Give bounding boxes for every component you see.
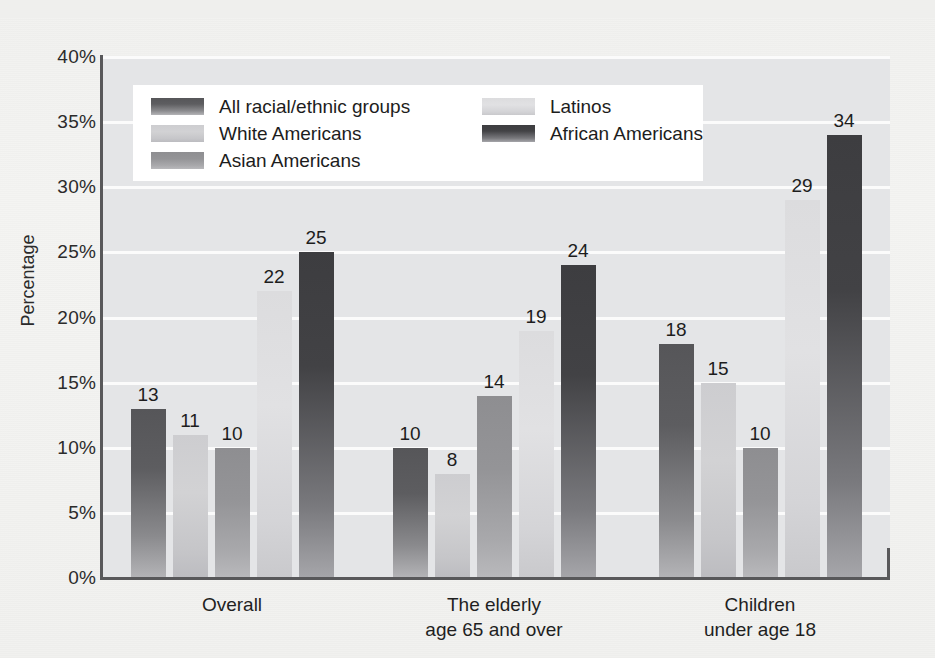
legend-item: White Americans <box>151 120 482 147</box>
legend-label: Latinos <box>550 96 611 118</box>
bar-value-label: 25 <box>305 227 326 249</box>
bar-value-label: 14 <box>483 371 504 393</box>
bar-value-label: 29 <box>791 175 812 197</box>
bar-value-label: 10 <box>221 423 242 445</box>
y-tick-labels: 0%5%10%15%20%25%30%35%40% <box>0 0 96 658</box>
x-group-label: Children under age 18 <box>704 592 816 642</box>
gridline <box>102 251 890 254</box>
gridline <box>102 56 890 59</box>
bar-value-label: 18 <box>665 319 686 341</box>
y-tick-label: 40% <box>4 46 96 68</box>
legend-item: Latinos <box>482 93 703 120</box>
bar: 11 <box>173 435 208 578</box>
x-axis-right-tick <box>887 548 890 580</box>
legend-label: African Americans <box>550 123 703 145</box>
bar: 10 <box>743 448 778 578</box>
bar: 15 <box>701 383 736 578</box>
y-tick-label: 5% <box>4 502 96 524</box>
y-tick-label: 10% <box>4 437 96 459</box>
x-axis-line <box>100 577 890 580</box>
bar: 10 <box>393 448 428 578</box>
gridline <box>102 186 890 189</box>
legend-column-right: LatinosAfrican Americans <box>482 93 703 181</box>
y-axis-title: Percentage <box>18 191 39 371</box>
bar: 14 <box>477 396 512 578</box>
legend-column-left: All racial/ethnic groupsWhite AmericansA… <box>151 93 482 181</box>
chart-figure: 13111022251081419241815102934 0%5%10%15%… <box>0 0 935 658</box>
bar: 25 <box>299 252 334 578</box>
bar: 10 <box>215 448 250 578</box>
legend-item: All racial/ethnic groups <box>151 93 482 120</box>
legend-item: African Americans <box>482 120 703 147</box>
legend-swatch-icon <box>482 98 535 115</box>
paper-top-edge <box>0 0 935 18</box>
y-tick-label: 35% <box>4 111 96 133</box>
bar: 13 <box>131 409 166 578</box>
x-group-label: The elderly age 65 and over <box>425 592 562 642</box>
bar: 19 <box>519 331 554 578</box>
bar-value-label: 15 <box>707 358 728 380</box>
bar-value-label: 19 <box>525 306 546 328</box>
legend-label: Asian Americans <box>219 150 361 172</box>
y-tick-label: 15% <box>4 372 96 394</box>
x-group-label: Overall <box>202 592 262 617</box>
legend-swatch-icon <box>151 152 204 169</box>
bar: 18 <box>659 344 694 578</box>
chart-legend: All racial/ethnic groupsWhite AmericansA… <box>133 85 703 181</box>
bar: 22 <box>257 291 292 578</box>
bar: 8 <box>435 474 470 578</box>
bar-value-label: 11 <box>180 410 200 432</box>
legend-label: All racial/ethnic groups <box>219 96 410 118</box>
legend-swatch-icon <box>151 125 204 142</box>
bar-value-label: 24 <box>567 240 588 262</box>
legend-swatch-icon <box>151 98 204 115</box>
gridline <box>102 317 890 320</box>
bar-value-label: 13 <box>137 384 158 406</box>
y-tick-label: 0% <box>4 567 96 589</box>
bar-value-label: 10 <box>399 423 420 445</box>
bar: 29 <box>785 200 820 578</box>
legend-item: Asian Americans <box>151 147 482 174</box>
legend-swatch-icon <box>482 125 535 142</box>
legend-label: White Americans <box>219 123 362 145</box>
bar: 34 <box>827 135 862 578</box>
bar-value-label: 22 <box>263 266 284 288</box>
y-axis-line <box>100 55 103 580</box>
bar-value-label: 10 <box>749 423 770 445</box>
bar-value-label: 34 <box>833 110 854 132</box>
bar-value-label: 8 <box>447 449 458 471</box>
bar: 24 <box>561 265 596 578</box>
